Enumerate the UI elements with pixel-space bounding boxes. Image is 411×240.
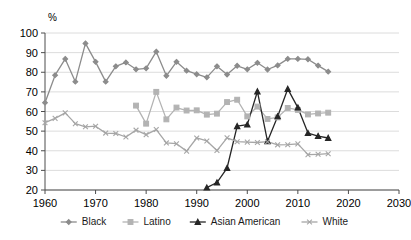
legend-marker-latino: [128, 220, 133, 225]
data-point-latino: [154, 89, 159, 94]
data-point-black: [83, 41, 88, 46]
legend-label-latino: Latino: [144, 216, 172, 227]
data-point-latino: [204, 112, 209, 117]
y-axis-unit-label: %: [48, 12, 57, 23]
y-tick-label: 40: [26, 145, 38, 157]
data-point-latino: [164, 117, 169, 122]
y-tick-label: 50: [26, 125, 38, 137]
data-point-latino: [255, 104, 260, 109]
data-point-black: [73, 79, 78, 84]
y-tick-label: 100: [20, 27, 38, 39]
x-tick-label: 1980: [134, 197, 158, 209]
data-point-latino: [326, 110, 331, 115]
x-tick-label: 1960: [33, 197, 57, 209]
y-tick-label: 80: [26, 66, 38, 78]
y-tick-label: 30: [26, 164, 38, 176]
data-point-asian-american: [234, 124, 239, 129]
legend-label-black: Black: [82, 216, 107, 227]
data-point-asian-american: [315, 133, 320, 138]
data-point-black: [43, 100, 48, 105]
legend-label-white: White: [323, 216, 349, 227]
data-point-asian-american: [204, 185, 209, 190]
x-tick-label: 1990: [184, 197, 208, 209]
data-point-latino: [134, 103, 139, 108]
legend-marker-asian-american: [195, 219, 200, 224]
data-point-latino: [245, 114, 250, 119]
data-point-latino: [194, 108, 199, 113]
x-tick-label: 2020: [336, 197, 360, 209]
data-point-asian-american: [224, 165, 229, 170]
data-point-latino: [265, 117, 270, 122]
data-point-latino: [174, 105, 179, 110]
data-point-asian-american: [255, 89, 260, 94]
legend-label-asian-american: Asian American: [211, 216, 280, 227]
data-point-black: [295, 57, 300, 62]
data-point-asian-american: [285, 86, 290, 91]
x-tick-label: 2010: [286, 197, 310, 209]
y-tick-label: 60: [26, 106, 38, 118]
chart-container: 2030405060708090100196019701980199020002…: [0, 0, 411, 240]
x-tick-label: 2030: [387, 197, 411, 209]
data-point-latino: [215, 111, 220, 116]
series-line-white: [45, 113, 328, 155]
data-point-latino: [306, 112, 311, 117]
x-tick-label: 2000: [235, 197, 259, 209]
line-chart: 2030405060708090100196019701980199020002…: [0, 0, 411, 240]
y-tick-label: 90: [26, 47, 38, 59]
data-point-asian-american: [295, 105, 300, 110]
data-point-latino: [184, 108, 189, 113]
x-tick-label: 1970: [83, 197, 107, 209]
legend-marker-black: [66, 220, 71, 225]
data-point-asian-american: [245, 122, 250, 127]
data-point-latino: [144, 121, 149, 126]
data-point-latino: [285, 106, 290, 111]
data-point-latino: [316, 111, 321, 116]
data-point-latino: [235, 97, 240, 102]
data-point-asian-american: [326, 135, 331, 140]
y-tick-label: 70: [26, 86, 38, 98]
data-point-black: [93, 59, 98, 64]
y-tick-label: 20: [26, 184, 38, 196]
data-point-latino: [225, 100, 230, 105]
